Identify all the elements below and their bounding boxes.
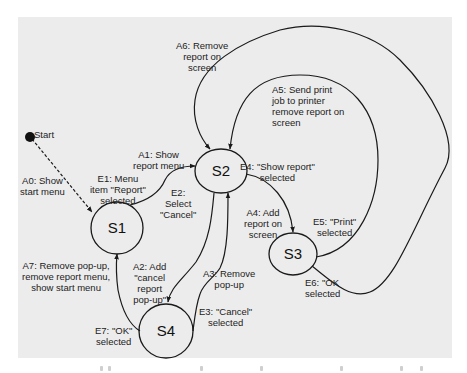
state-s1-label: S1 — [97, 219, 137, 236]
label-e7: E7: "OK" selected — [95, 325, 132, 347]
label-a4: A4: Add report on screen — [244, 207, 282, 240]
label-e6: E6: "OK selected — [305, 277, 340, 299]
label-a0: A0: Show start menu — [20, 175, 65, 197]
state-s4-label: S4 — [146, 322, 186, 339]
transition-s3-s2-ok — [194, 26, 449, 294]
label-e3: E3: "Cancel" selected — [199, 306, 252, 328]
label-a1: A1: Show report menu — [133, 149, 184, 171]
cropped-text-fragment — [100, 364, 460, 373]
label-e2: E2: Select "Cancel" — [160, 187, 196, 220]
label-e4: E4: "Show report" selected — [240, 161, 315, 183]
label-e1: E1: Menu item "Report" selected — [90, 173, 146, 206]
state-s3-label: S3 — [273, 245, 313, 262]
label-a6: A6: Remove report on screen — [176, 40, 228, 73]
label-a7: A7: Remove pop-up, remove report menu, s… — [22, 260, 110, 293]
label-e5: E5: "Print" selected — [313, 216, 356, 238]
label-a2: A2: Add "cancel report pop-up" — [133, 261, 166, 305]
start-label: Start — [34, 129, 54, 140]
state-s2-label: S2 — [201, 162, 241, 179]
label-a5: A5: Send print job to printer remove rep… — [272, 84, 344, 128]
label-a3: A3: Remove pop-up — [203, 268, 255, 290]
